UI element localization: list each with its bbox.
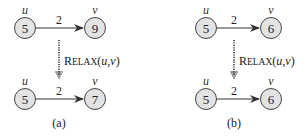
node-u-value: 5 [22, 21, 29, 36]
node-u-label: u [203, 74, 209, 88]
panel-caption: (b) [227, 116, 241, 130]
panel-caption: (a) [52, 116, 65, 130]
relax-arrow: RELAX(u,v) [230, 40, 295, 78]
node-u-value: 5 [203, 21, 210, 36]
after-row: u v 2 5 6 [196, 74, 282, 110]
edge-weight: 2 [56, 84, 62, 98]
node-v-label: v [268, 74, 274, 88]
node-v-value: 9 [92, 21, 99, 36]
relax-arrow: RELAX(u,v) [55, 40, 120, 78]
arrow-tip-icon [55, 72, 63, 78]
edge-weight: 2 [231, 13, 237, 27]
node-u-label: u [203, 3, 209, 17]
edge-weight: 2 [231, 84, 237, 98]
node-u-value: 5 [203, 92, 210, 107]
node-v-value: 6 [268, 92, 275, 107]
before-row: u v 2 5 6 [196, 3, 282, 39]
node-v-value: 6 [268, 21, 275, 36]
relax-label: RELAX(u,v) [239, 54, 295, 68]
node-u-value: 5 [22, 92, 29, 107]
edge-weight: 2 [56, 13, 62, 27]
node-v-label: v [92, 3, 98, 17]
node-v-label: v [268, 3, 274, 17]
node-u-label: u [22, 74, 28, 88]
node-v-label: v [92, 74, 98, 88]
panel-a: u v 2 5 9 RELAX(u,v) u v 2 [15, 3, 120, 130]
relax-label: RELAX(u,v) [64, 54, 120, 68]
relaxation-diagram: u v 2 5 9 RELAX(u,v) u v 2 [0, 0, 306, 136]
after-row: u v 2 5 7 [15, 74, 106, 110]
arrow-tip-icon [230, 72, 238, 78]
panel-b: u v 2 5 6 RELAX(u,v) u v 2 [196, 3, 295, 130]
before-row: u v 2 5 9 [15, 3, 106, 39]
node-u-label: u [22, 3, 28, 17]
node-v-value: 7 [92, 92, 99, 107]
